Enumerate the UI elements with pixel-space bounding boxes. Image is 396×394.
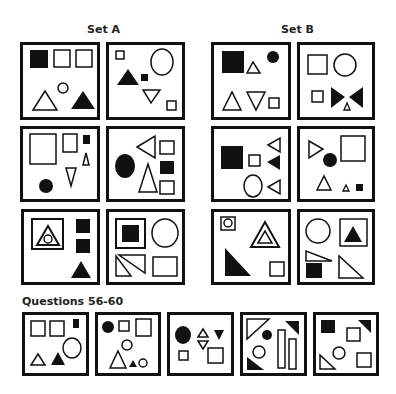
shapes-b4 <box>300 129 372 199</box>
set-a-heading: Set A <box>87 23 120 36</box>
shapes-b3 <box>214 129 288 199</box>
set-a-panel-3 <box>20 126 100 202</box>
shapes-a1 <box>23 45 97 117</box>
set-b-panel-5 <box>211 209 291 285</box>
shapes-b5 <box>214 212 288 282</box>
questions-heading: Questions 56-60 <box>22 295 123 308</box>
shapes-a6 <box>109 212 182 282</box>
set-a-panel-5 <box>21 209 100 285</box>
shapes-a5 <box>24 212 97 282</box>
set-b-panel-1 <box>211 42 291 120</box>
question-58-panel[interactable] <box>167 312 234 376</box>
shapes-q56 <box>25 315 86 373</box>
question-56-panel[interactable] <box>22 312 89 376</box>
shapes-q60 <box>316 315 376 373</box>
shapes-q57 <box>98 315 158 373</box>
shapes-a4 <box>109 129 182 199</box>
set-a-panel-1 <box>20 42 100 120</box>
shapes-q59 <box>243 315 304 373</box>
shapes-q58 <box>170 315 231 373</box>
set-a-panel-4 <box>106 126 185 202</box>
set-b-panel-2 <box>297 42 375 120</box>
question-60-panel[interactable] <box>313 312 379 376</box>
set-b-heading: Set B <box>281 23 314 36</box>
set-b-panel-4 <box>297 126 375 202</box>
set-a-panel-6 <box>106 209 185 285</box>
question-59-panel[interactable] <box>240 312 307 376</box>
shapes-b6 <box>300 212 372 282</box>
set-b-panel-6 <box>297 209 375 285</box>
set-b-panel-3 <box>211 126 291 202</box>
shapes-a2 <box>109 45 182 117</box>
shapes-b2 <box>300 45 372 117</box>
shapes-a3 <box>23 129 97 199</box>
shapes-b1 <box>214 45 288 117</box>
question-57-panel[interactable] <box>95 312 161 376</box>
set-a-panel-2 <box>106 42 185 120</box>
